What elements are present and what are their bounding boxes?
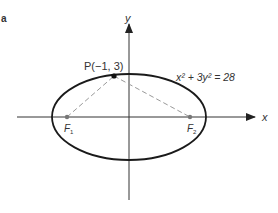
point-p-label: P(−1, 3) bbox=[84, 60, 123, 72]
focus-1 bbox=[65, 115, 69, 119]
point-p bbox=[111, 73, 116, 78]
y-axis-label: y bbox=[124, 12, 132, 24]
panel-label: a bbox=[1, 13, 7, 24]
equation-label: x² + 3y² = 28 bbox=[175, 71, 235, 83]
focus-2 bbox=[188, 115, 192, 119]
x-axis-label: x bbox=[261, 111, 268, 123]
focal-line-1 bbox=[67, 76, 114, 117]
focus-2-label: F2 bbox=[187, 123, 197, 135]
ellipse-diagram: a x y P(−1, 3) F1 F2 x² + 3y² = 28 bbox=[0, 0, 278, 213]
focus-1-label: F1 bbox=[64, 123, 74, 135]
